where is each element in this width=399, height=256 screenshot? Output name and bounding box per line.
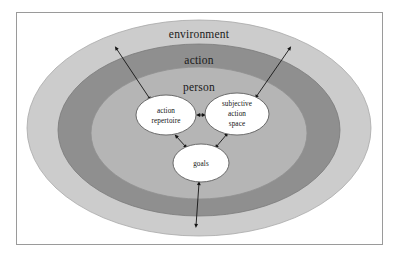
- nested-ellipse-diagram: environment action person action reperto…: [0, 0, 399, 256]
- ring-label-environment: environment: [169, 28, 230, 40]
- diagram-canvas: environment action person action reperto…: [0, 0, 399, 256]
- node-label-goals: goals: [193, 160, 209, 168]
- node-label-action-repertoire-line1: action: [157, 107, 175, 115]
- ring-label-person: person: [183, 81, 215, 94]
- node-label-subjective-action-space-line1: subjective: [222, 100, 252, 108]
- node-label-subjective-action-space-line2: action: [228, 110, 246, 118]
- node-action-repertoire[interactable]: [136, 95, 196, 135]
- ring-label-action: action: [184, 54, 213, 66]
- node-label-action-repertoire-line2: repertoire: [152, 117, 181, 125]
- node-label-subjective-action-space-line3: space: [229, 120, 245, 128]
